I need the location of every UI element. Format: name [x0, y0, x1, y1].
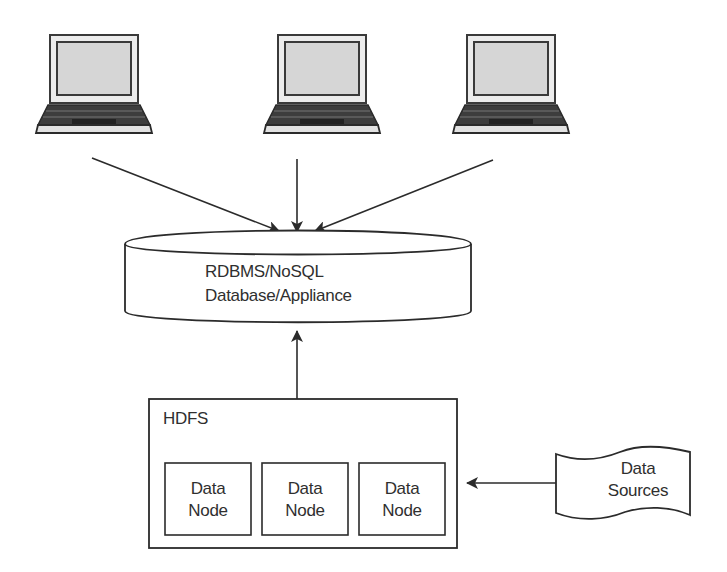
hdfs-title: HDFS: [163, 408, 208, 430]
laptop-3: [453, 35, 569, 133]
laptop-2: [264, 35, 380, 133]
database-label-line2: Database/Appliance: [205, 284, 405, 308]
data-node-1-label: Data Node: [166, 478, 250, 522]
arrow-laptop1-to-db: [92, 158, 279, 231]
data-node-2-label: Data Node: [263, 478, 347, 522]
data-node-3-line1: Data: [360, 478, 444, 500]
arrow-laptop3-to-db: [315, 160, 493, 231]
data-sources-line2: Sources: [600, 480, 676, 502]
data-node-3-line2: Node: [360, 500, 444, 522]
data-node-2-line1: Data: [263, 478, 347, 500]
data-sources-label: Data Sources: [600, 458, 676, 502]
data-sources-line1: Data: [600, 458, 676, 480]
data-node-3-label: Data Node: [360, 478, 444, 522]
data-node-1-line1: Data: [166, 478, 250, 500]
database-label-line1: RDBMS/NoSQL: [205, 260, 405, 284]
database-label: RDBMS/NoSQL Database/Appliance: [205, 260, 405, 308]
laptop-1: [36, 35, 152, 133]
data-node-1-line2: Node: [166, 500, 250, 522]
data-node-2-line2: Node: [263, 500, 347, 522]
